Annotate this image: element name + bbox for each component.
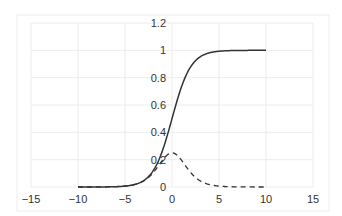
y-tick-label: 1.2 [151,17,166,29]
y-tick-label: 0.2 [151,154,166,166]
x-tick-label: 0 [169,193,175,205]
x-tick-label: −10 [69,193,88,205]
x-tick-label: 10 [260,193,272,205]
x-tick-label: 5 [216,193,222,205]
x-tick-label: 15 [307,193,319,205]
x-tick-label: −5 [119,193,132,205]
y-tick-label: 0 [160,181,166,193]
x-tick-label: −15 [22,193,41,205]
chart: 00.20.40.60.811.2 −15−10−5051015 [0,0,342,216]
y-tick-label: 0.4 [151,126,166,138]
y-tick-label: 0.6 [151,99,166,111]
y-tick-label: 0.8 [151,72,166,84]
y-tick-label: 1 [160,44,166,56]
